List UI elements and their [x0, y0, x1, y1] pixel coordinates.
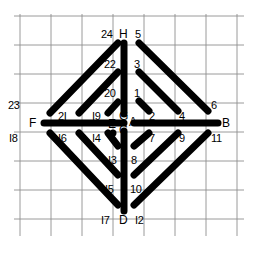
segment-14-13 — [108, 133, 118, 146]
label-6: 6 — [211, 100, 217, 111]
label-E: E — [108, 119, 116, 130]
diagram-page: 24H5223201232II9246GAECFBI8I6I47911I38I5… — [0, 0, 260, 263]
label-I5: I5 — [105, 184, 114, 195]
label-24: 24 — [101, 29, 113, 40]
label-23: 23 — [8, 100, 20, 111]
label-I4: I4 — [92, 133, 101, 144]
label-B: B — [222, 118, 230, 129]
label-D: D — [119, 215, 127, 226]
label-11: 11 — [211, 133, 222, 144]
label-22: 22 — [104, 59, 116, 70]
label-20: 20 — [104, 88, 116, 99]
label-I9: I9 — [92, 111, 101, 122]
label-2: 2 — [149, 111, 155, 122]
label-I3: I3 — [108, 155, 117, 166]
label-F: F — [29, 118, 36, 129]
label-8: 8 — [131, 155, 137, 166]
segment-19-20 — [108, 102, 118, 113]
label-2I: 2I — [58, 111, 67, 122]
label-H: H — [119, 29, 127, 40]
label-G: G — [119, 111, 128, 122]
label-10: 10 — [130, 184, 142, 195]
label-1: 1 — [134, 88, 140, 99]
label-I7: I7 — [101, 215, 110, 226]
segment-5-6 — [139, 43, 208, 111]
label-A: A — [129, 117, 137, 128]
label-4: 4 — [179, 111, 185, 122]
label-I6: I6 — [58, 133, 67, 144]
label-I2: I2 — [135, 215, 144, 226]
label-9: 9 — [179, 133, 185, 144]
label-5: 5 — [135, 29, 141, 40]
segment-1-2 — [139, 101, 149, 111]
segment-7-8 — [134, 133, 149, 146]
label-3: 3 — [134, 59, 140, 70]
label-7: 7 — [149, 133, 155, 144]
label-C: C — [119, 125, 127, 136]
label-I8: I8 — [9, 133, 18, 144]
